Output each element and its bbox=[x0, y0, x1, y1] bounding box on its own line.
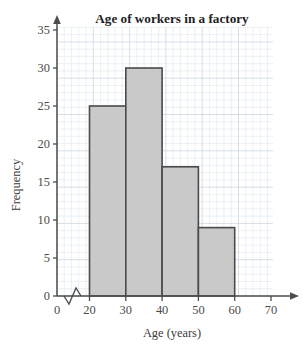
histogram-bar bbox=[198, 228, 234, 296]
y-tick-label: 20 bbox=[38, 137, 50, 151]
histogram-bar bbox=[90, 106, 126, 296]
x-tick-label: 0 bbox=[54, 303, 60, 317]
x-tick-label: 70 bbox=[265, 303, 277, 317]
x-tick-label: 40 bbox=[156, 303, 168, 317]
x-tick-label: 20 bbox=[83, 303, 95, 317]
histogram-chart: Age of workers in a factory Age (years) … bbox=[0, 0, 308, 349]
y-tick-label: 10 bbox=[38, 213, 50, 227]
y-tick-label: 5 bbox=[44, 251, 50, 265]
histogram-bar bbox=[126, 68, 162, 296]
x-tick-label: 30 bbox=[120, 303, 132, 317]
histogram-bar bbox=[162, 167, 198, 296]
y-tick-label: 30 bbox=[38, 61, 50, 75]
x-tick-label: 60 bbox=[229, 303, 241, 317]
chart-title: Age of workers in a factory bbox=[95, 11, 249, 26]
x-tick-label: 50 bbox=[192, 303, 204, 317]
y-tick-label: 35 bbox=[38, 23, 50, 37]
x-tick-labels: 0203040506070 bbox=[54, 303, 277, 317]
y-tick-label: 25 bbox=[38, 99, 50, 113]
x-axis-label: Age (years) bbox=[143, 326, 201, 340]
y-tick-label: 0 bbox=[44, 289, 50, 303]
y-tick-label: 15 bbox=[38, 175, 50, 189]
y-axis-label: Frequency bbox=[9, 158, 23, 211]
y-tick-labels: 05101520253035 bbox=[38, 23, 50, 303]
